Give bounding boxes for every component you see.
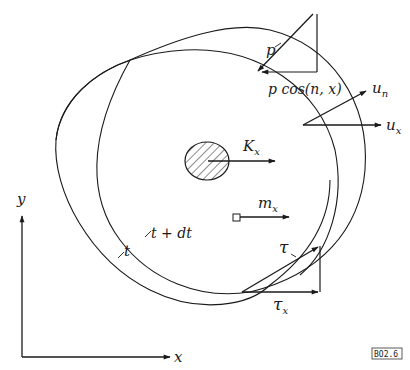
curve-labels: t t + dt bbox=[118, 225, 192, 260]
u-n-label: un bbox=[372, 79, 388, 99]
tau-x-label: τx bbox=[273, 294, 288, 316]
pressure-triangle: p p cos(n, x) bbox=[258, 14, 342, 97]
tau-label: τ bbox=[279, 237, 289, 257]
u-x-label: ux bbox=[386, 116, 402, 136]
moment-group: mx bbox=[233, 194, 289, 221]
diagram-canvas: y x t t + dt Kx mx p p cos(n, x) un bbox=[0, 0, 410, 370]
coordinate-axes: y x bbox=[16, 190, 183, 366]
y-axis-label: y bbox=[16, 190, 26, 208]
body-force-group: Kx bbox=[185, 137, 275, 180]
small-element-square bbox=[233, 214, 240, 221]
figure-id-text: BO2.6 bbox=[374, 350, 398, 359]
label-t-dt: t + dt bbox=[151, 225, 192, 241]
K-x-label: Kx bbox=[242, 137, 260, 157]
p-cos-label: p cos(n, x) bbox=[268, 81, 342, 97]
p-label: p bbox=[266, 41, 276, 59]
figure-id-tag: BO2.6 bbox=[372, 348, 402, 359]
label-t: t bbox=[124, 242, 131, 260]
m-x-label: mx bbox=[258, 194, 278, 214]
x-axis-label: x bbox=[174, 348, 183, 366]
